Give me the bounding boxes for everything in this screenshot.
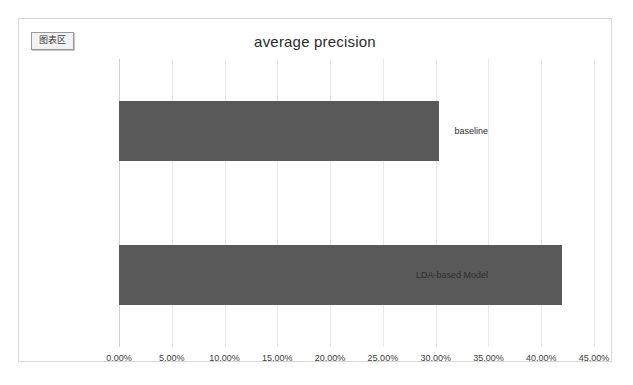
category-label: LDA-based Model xyxy=(416,270,488,280)
x-tick-label: 35.00% xyxy=(473,353,504,363)
category-label: baseline xyxy=(454,126,488,136)
chart-title: average precision xyxy=(19,33,611,50)
x-tick-label: 0.00% xyxy=(106,353,132,363)
x-tick-label: 20.00% xyxy=(315,353,346,363)
x-tick-label: 5.00% xyxy=(159,353,185,363)
bar-baseline[interactable] xyxy=(119,101,439,161)
x-tick-label: 30.00% xyxy=(420,353,451,363)
bar-lda-based-model[interactable] xyxy=(119,245,562,305)
x-tick-label: 25.00% xyxy=(368,353,399,363)
gridline-45.00% xyxy=(594,59,595,347)
x-tick-label: 40.00% xyxy=(526,353,557,363)
x-tick-label: 10.00% xyxy=(209,353,240,363)
x-tick-label: 45.00% xyxy=(579,353,610,363)
x-tick-label: 15.00% xyxy=(262,353,293,363)
plot-area: 0.00%5.00%10.00%15.00%20.00%25.00%30.00%… xyxy=(119,59,594,347)
chart-frame: 图表区 average precision 0.00%5.00%10.00%15… xyxy=(18,18,612,362)
